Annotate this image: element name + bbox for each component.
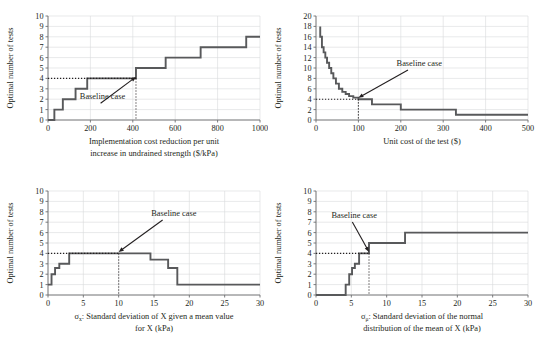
y-tick-label: 5 (39, 64, 43, 73)
y-tick-label: 7 (307, 218, 311, 227)
grid-lines (316, 16, 528, 120)
y-tick-label: 3 (39, 85, 43, 94)
baseline-arrow (119, 220, 163, 252)
y-tick-label: 2 (307, 270, 311, 279)
x-tick-label: 30 (524, 299, 532, 308)
y-tick-label: 9 (39, 197, 43, 206)
x-tick-label: 400 (479, 124, 491, 133)
y-tick-label: 6 (307, 229, 311, 238)
baseline-arrow (352, 222, 369, 252)
x-tick-label: 15 (150, 299, 158, 308)
y-axis-title: Optimal number of tests (6, 27, 15, 108)
x-axis-title-line: σx: Standard deviation of X given a mean… (75, 312, 234, 322)
y-tick-label: 12 (303, 54, 311, 63)
x-tick-label: 5 (349, 299, 353, 308)
baseline-annotation-label: Baseline case (397, 59, 443, 68)
y-tick-label: 2 (39, 270, 43, 279)
y-tick-label: 14 (303, 43, 311, 52)
tick-marks (314, 16, 529, 123)
x-tick-label: 25 (489, 299, 497, 308)
y-tick-label: 3 (39, 260, 43, 269)
y-tick-label: 5 (307, 239, 311, 248)
baseline-annotation-label: Baseline case (332, 211, 378, 220)
y-tick-label: 6 (307, 85, 311, 94)
x-tick-label: 0 (46, 124, 50, 133)
x-tick-label: 25 (221, 299, 229, 308)
baseline-annotation-label: Baseline case (151, 209, 197, 218)
y-tick-label: 4 (307, 249, 311, 258)
y-tick-label: 20 (303, 12, 311, 21)
y-axis-title: Optimal number of tests (6, 202, 15, 283)
x-tick-label: 200 (84, 124, 96, 133)
x-axis-title-line: Unit cost of the test ($) (383, 137, 461, 146)
x-tick-label: 15 (418, 299, 426, 308)
y-axis-title: Optimal number of tests (274, 27, 283, 108)
x-tick-label: 100 (352, 124, 364, 133)
y-tick-label: 3 (307, 260, 311, 269)
x-tick-label: 500 (522, 124, 534, 133)
y-tick-label: 10 (35, 187, 43, 196)
y-tick-label: 2 (307, 106, 311, 115)
y-tick-label: 9 (307, 197, 311, 206)
x-tick-label: 300 (437, 124, 449, 133)
y-tick-label: 0 (39, 291, 43, 300)
x-tick-label: 10 (383, 299, 391, 308)
y-tick-label: 18 (303, 22, 311, 31)
y-tick-label: 1 (39, 281, 43, 290)
y-tick-label: 16 (303, 33, 311, 42)
y-tick-label: 8 (307, 74, 311, 83)
data-series-line (320, 26, 528, 114)
y-axis-title: Optimal number of tests (274, 202, 283, 283)
y-tick-label: 10 (303, 64, 311, 73)
x-axis-title-line: σμ: Standard deviation of the normal (361, 312, 484, 322)
y-tick-label: 8 (307, 208, 311, 217)
chart-panel-d: 051015202530012345678910Baseline caseOpt… (268, 175, 536, 350)
x-tick-label: 800 (211, 124, 223, 133)
y-tick-label: 0 (307, 291, 311, 300)
y-tick-label: 5 (39, 239, 43, 248)
x-tick-label: 5 (81, 299, 85, 308)
baseline-annotation-label: Baseline case (80, 92, 126, 101)
x-tick-label: 200 (395, 124, 407, 133)
x-axis-title-line: increase in undrained strength ($/kPa) (90, 149, 218, 158)
x-tick-label: 0 (46, 299, 50, 308)
x-tick-label: 0 (314, 124, 318, 133)
y-tick-label: 2 (39, 95, 43, 104)
x-axis-title-line: Implementation cost reduction per unit (89, 137, 220, 146)
tick-marks (46, 191, 261, 298)
x-tick-label: 400 (127, 124, 139, 133)
x-tick-label: 600 (169, 124, 181, 133)
y-tick-label: 1 (39, 106, 43, 115)
x-tick-label: 1000 (252, 124, 268, 133)
y-tick-label: 6 (39, 229, 43, 238)
y-tick-label: 7 (39, 43, 43, 52)
y-tick-label: 4 (39, 249, 43, 258)
y-tick-label: 7 (39, 218, 43, 227)
y-tick-label: 1 (307, 281, 311, 290)
figure-four-panel-sensitivity: 02004006008001000012345678910Baseline ca… (0, 0, 537, 350)
tick-marks (46, 16, 261, 123)
y-tick-label: 4 (39, 74, 43, 83)
x-tick-label: 10 (115, 299, 123, 308)
x-tick-label: 20 (185, 299, 193, 308)
y-tick-label: 0 (39, 116, 43, 125)
x-tick-label: 0 (314, 299, 318, 308)
x-axis-title-line: for X (kPa) (135, 324, 173, 333)
x-tick-label: 30 (256, 299, 264, 308)
grid-lines (48, 191, 260, 295)
y-tick-label: 10 (35, 12, 43, 21)
x-axis-title-line: distribution of the mean of X (kPa) (363, 324, 481, 333)
x-tick-label: 20 (453, 299, 461, 308)
tick-marks (314, 191, 529, 298)
grid-lines (316, 191, 528, 295)
y-tick-label: 4 (307, 95, 311, 104)
y-tick-label: 10 (303, 187, 311, 196)
y-tick-label: 6 (39, 54, 43, 63)
y-tick-label: 0 (307, 116, 311, 125)
y-tick-label: 9 (39, 22, 43, 31)
y-tick-label: 8 (39, 33, 43, 42)
chart-panel-c: 051015202530012345678910Baseline caseOpt… (0, 175, 268, 350)
chart-panel-b: 010020030040050002468101214161820Baselin… (268, 0, 536, 175)
chart-panel-a: 02004006008001000012345678910Baseline ca… (0, 0, 268, 175)
y-tick-label: 8 (39, 208, 43, 217)
